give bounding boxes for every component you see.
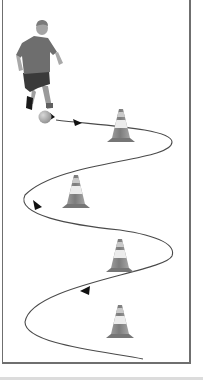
cone-icon-2 (62, 175, 90, 208)
cone-icon-3 (106, 239, 134, 272)
soccer-player-icon (16, 20, 63, 110)
slalom-dribble-path (24, 120, 173, 359)
cone-icon-4 (106, 305, 134, 338)
arrow-icon (73, 119, 82, 126)
arrow-icon (80, 286, 90, 295)
soccer-ball-icon (39, 111, 52, 124)
bottom-divider (0, 377, 203, 380)
arrow-icon (33, 200, 42, 210)
slalom-drill-diagram (0, 0, 203, 383)
